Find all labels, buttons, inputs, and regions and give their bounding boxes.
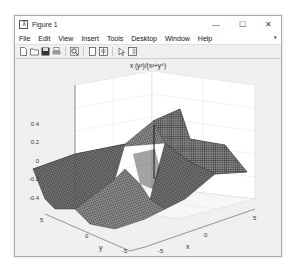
print-button[interactable] (51, 47, 61, 57)
minimize-button[interactable]: — (203, 16, 229, 32)
figure-window: ⊼ Figure 1 — ☐ ✕ File Edit View Insert T… (14, 15, 282, 257)
edit-plot-icon (117, 47, 126, 56)
menu-view[interactable]: View (54, 35, 77, 42)
close-button[interactable]: ✕ (255, 16, 281, 32)
x-tick-0: 0 (204, 232, 207, 238)
surface-plot[interactable] (15, 59, 281, 257)
y-tick-0: 0 (85, 233, 88, 239)
save-icon (41, 47, 50, 56)
print-icon (52, 47, 61, 56)
menu-bar: File Edit View Insert Tools Desktop Wind… (15, 32, 281, 44)
z-tick-0.4: 0.4 (19, 121, 39, 127)
zoom-button[interactable] (69, 47, 79, 57)
toolbar-separator (65, 47, 66, 56)
menu-desktop[interactable]: Desktop (127, 35, 161, 42)
z-tick-neg0.4: -0.4 (19, 195, 39, 201)
menu-file[interactable]: File (15, 35, 34, 42)
menu-overflow-icon[interactable]: ▾ (274, 34, 277, 40)
menu-edit[interactable]: Edit (34, 35, 54, 42)
open-file-button[interactable] (29, 47, 39, 57)
figure-toolbar (15, 44, 281, 59)
plot-title: x (y²)/(x²+y⁴) (15, 62, 281, 69)
y-tick-neg5: -5 (122, 248, 127, 254)
figure-canvas[interactable]: x (y²)/(x²+y⁴) 0.4 0.2 0 -0.2 -0.4 5 0 -… (15, 59, 281, 256)
menu-insert[interactable]: Insert (77, 35, 103, 42)
z-tick-0.2: 0.2 (19, 139, 39, 145)
open-file-icon (30, 47, 39, 56)
zoom-icon (70, 47, 79, 56)
y-tick-5: 5 (40, 217, 43, 223)
edit-plot-button[interactable] (116, 47, 126, 57)
x-axis-label: x (186, 243, 190, 250)
menu-tools[interactable]: Tools (103, 35, 127, 42)
x-tick-5: 5 (253, 215, 256, 221)
matlab-figure-icon: ⊼ (19, 20, 28, 29)
save-button[interactable] (40, 47, 50, 57)
y-axis-label: y (99, 244, 103, 251)
x-tick-neg5: -5 (158, 248, 163, 254)
z-tick-0: 0 (19, 158, 39, 164)
toolbar-separator (83, 47, 84, 56)
new-figure-button[interactable] (18, 47, 28, 57)
window-title: Figure 1 (32, 21, 58, 28)
new-figure-icon (19, 47, 28, 56)
dock-figure-button[interactable] (87, 47, 97, 57)
menu-window[interactable]: Window (161, 35, 194, 42)
insert-colorbar-icon (99, 47, 108, 56)
menu-help[interactable]: Help (194, 35, 216, 42)
maximize-button[interactable]: ☐ (229, 16, 255, 32)
toolbar-separator (112, 47, 113, 56)
dock-figure-icon (88, 47, 97, 56)
insert-legend-button[interactable] (127, 47, 137, 57)
title-bar[interactable]: ⊼ Figure 1 — ☐ ✕ (15, 16, 281, 32)
insert-colorbar-button[interactable] (98, 47, 108, 57)
insert-legend-icon (128, 47, 137, 56)
z-tick-neg0.2: -0.2 (19, 176, 39, 182)
